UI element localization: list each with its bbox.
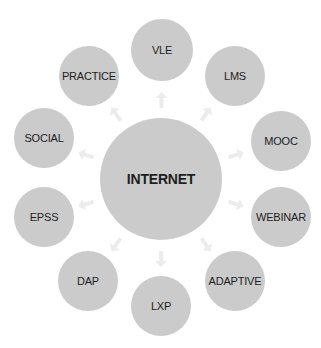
node-dap: DAP [58, 251, 118, 311]
node-label: WEBINAR [256, 211, 306, 223]
node-lms: LMS [205, 46, 265, 106]
node-mooc: MOOC [251, 111, 311, 171]
node-label: VLE [152, 44, 172, 56]
node-lxp: LXP [131, 276, 191, 336]
center-node-label: INTERNET [127, 171, 195, 187]
node-webinar: WEBINAR [251, 187, 311, 247]
node-label: LXP [151, 300, 171, 312]
arrow-icon [77, 147, 96, 163]
arrow-icon [196, 235, 215, 255]
arrow-icon [155, 251, 167, 267]
arrow-icon [196, 104, 215, 124]
arrow-icon [227, 196, 246, 212]
node-vle: VLE [131, 19, 193, 81]
center-node-internet: INTERNET [100, 118, 222, 240]
node-label: LMS [224, 70, 246, 82]
node-label: SOCIAL [24, 132, 63, 144]
node-label: MOOC [264, 135, 297, 147]
node-label: EPSS [30, 211, 59, 223]
arrow-icon [156, 92, 168, 108]
node-social: SOCIAL [14, 108, 74, 168]
arrow-icon [77, 196, 96, 212]
arrow-icon [227, 147, 246, 163]
node-practice: PRACTICE [59, 46, 119, 106]
node-label: DAP [77, 275, 99, 287]
node-adaptive: ADAPTIVE [205, 251, 265, 311]
node-label: ADAPTIVE [209, 275, 262, 287]
node-label: PRACTICE [62, 70, 116, 82]
node-epss: EPSS [14, 187, 74, 247]
arrow-icon [106, 104, 125, 124]
arrow-icon [106, 235, 125, 255]
